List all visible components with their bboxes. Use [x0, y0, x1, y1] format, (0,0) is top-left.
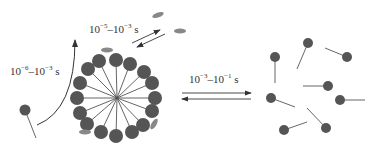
solubilizate-icon: [149, 118, 159, 131]
solubilizate-icon: [152, 11, 165, 20]
micelle-head-icon: [145, 76, 159, 90]
monomer-exchange-time-label: 10−6–10−3 s: [10, 65, 59, 77]
free-monomer-head-icon: [20, 105, 31, 116]
micelle-head-icon: [94, 125, 108, 139]
dispersed-monomer-head-icon: [279, 125, 289, 135]
micelle-dissolution-time-label: 10−3–10−1 s: [189, 73, 238, 85]
micelle-head-icon: [123, 57, 137, 71]
dispersed-monomer-head-icon: [342, 52, 352, 62]
solubilizate-exchange-time-label: 10−5–10−3 s: [89, 23, 138, 35]
micelle-head-icon: [81, 62, 95, 76]
dispersed-monomer-head-icon: [266, 93, 276, 103]
dispersed-monomer-head-icon: [303, 38, 313, 48]
micelle-head-icon: [125, 125, 139, 139]
solubilizate-in-arrow-icon: [137, 34, 165, 47]
micelle-kinetics-diagram: 10−6–10−3 s 10−5–10−3 s 10−3–10−1 s: [0, 0, 377, 149]
dispersed-monomer-head-icon: [335, 95, 345, 105]
solubilizate-icon: [101, 48, 113, 53]
dispersed-monomer-head-icon: [323, 81, 333, 91]
micelle-head-icon: [109, 53, 123, 67]
solubilizate-icon: [79, 130, 91, 135]
micelle-head-icon: [109, 129, 123, 143]
solubilizate-icon: [174, 29, 186, 34]
micelle-head-icon: [148, 91, 162, 105]
micelle-head-icon: [70, 91, 84, 105]
micelle-head-icon: [80, 117, 94, 131]
micelle-head-icon: [73, 76, 87, 90]
micelle-head-icon: [145, 104, 159, 118]
monomer-exit-arrow-icon: [37, 40, 75, 125]
dispersed-monomer-head-icon: [321, 123, 331, 133]
dispersed-monomer-head-icon: [270, 52, 280, 62]
